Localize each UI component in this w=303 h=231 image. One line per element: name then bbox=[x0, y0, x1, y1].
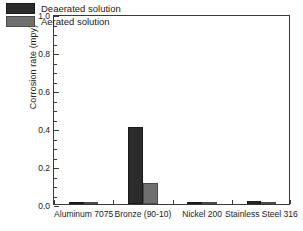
y-axis-tick-minor bbox=[54, 121, 57, 122]
y-axis-tick-label: 0.6 bbox=[38, 87, 50, 97]
legend-label: Aerated solution bbox=[41, 16, 110, 27]
y-axis-tick-major: 0.8 bbox=[54, 54, 59, 55]
legend-swatch bbox=[6, 3, 35, 14]
bar bbox=[261, 202, 276, 204]
y-axis-tick-major: 0.2 bbox=[54, 168, 59, 169]
y-axis-tick-major: 0.6 bbox=[54, 92, 59, 93]
x-axis-category-label: Nickel 200 bbox=[182, 209, 222, 219]
bar bbox=[143, 183, 158, 204]
y-axis-tick-minor bbox=[54, 45, 57, 46]
legend-swatch bbox=[6, 16, 35, 27]
x-axis-category-label: Bronze (90-10) bbox=[115, 209, 172, 219]
chart-legend: Deaerated solutionAerated solution bbox=[6, 3, 121, 27]
y-axis-tick-minor bbox=[54, 83, 57, 84]
bar bbox=[128, 127, 143, 204]
bar bbox=[247, 201, 262, 204]
x-axis-category-label: Aluminum 7075 bbox=[54, 209, 113, 219]
bar bbox=[84, 202, 99, 204]
x-axis-category-label: Stainless Steel 316 bbox=[225, 209, 298, 219]
y-axis-tick-minor bbox=[54, 197, 57, 198]
legend-item: Aerated solution bbox=[6, 16, 121, 27]
plot-area: 0.00.20.40.60.81.0 Aluminum 7075Bronze (… bbox=[53, 15, 290, 205]
bar bbox=[202, 202, 217, 204]
y-axis-tick-label: 0.2 bbox=[38, 163, 50, 173]
chart-figure: Corrosion rate (mpy) 0.00.20.40.60.81.0 … bbox=[0, 0, 303, 231]
x-axis-tick bbox=[173, 200, 174, 204]
y-axis-tick-minor bbox=[54, 178, 57, 179]
legend-label: Deaerated solution bbox=[41, 3, 121, 14]
bar bbox=[69, 202, 84, 204]
y-axis-tick-minor bbox=[54, 73, 57, 74]
y-axis-tick-label: 0.8 bbox=[38, 49, 50, 59]
x-axis-tick bbox=[113, 200, 114, 204]
y-axis-tick-minor bbox=[54, 149, 57, 150]
x-axis-tick bbox=[290, 200, 291, 204]
y-axis-tick-minor bbox=[54, 111, 57, 112]
x-axis-tick bbox=[54, 200, 55, 204]
y-axis-tick-label: 0.0 bbox=[38, 201, 50, 211]
y-axis-tick-minor bbox=[54, 64, 57, 65]
y-axis-tick-major: 0.4 bbox=[54, 130, 59, 131]
y-axis-tick-minor bbox=[54, 187, 57, 188]
y-axis-tick-major: 0.0 bbox=[54, 206, 59, 207]
y-axis-tick-minor bbox=[54, 159, 57, 160]
x-axis-tick bbox=[232, 200, 233, 204]
bar bbox=[187, 202, 202, 204]
y-axis-tick-minor bbox=[54, 35, 57, 36]
legend-item: Deaerated solution bbox=[6, 3, 121, 14]
y-axis-tick-minor bbox=[54, 102, 57, 103]
y-axis-tick-minor bbox=[54, 140, 57, 141]
y-axis-tick-label: 0.4 bbox=[38, 125, 50, 135]
